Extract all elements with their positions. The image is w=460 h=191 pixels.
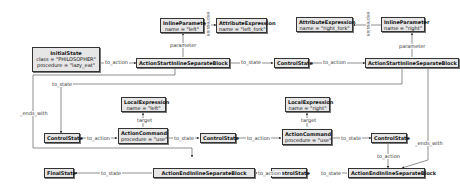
- node-title: ActionStartInlineSeparateBlock: [139, 60, 227, 66]
- edge-label-to-action: to_action: [322, 60, 347, 65]
- edge-label-to-state: to_state: [340, 136, 362, 141]
- node-attr: name = "left": [124, 105, 163, 111]
- action-start-inline-separate-block-left-node[interactable]: ActionStartInlineSeparateBlock: [136, 58, 230, 68]
- edge-label-to-state: to_state: [240, 60, 262, 65]
- edge-label-to-action: to_action: [246, 136, 271, 141]
- node-attr: procedure = "lazy_eat": [35, 62, 97, 68]
- action-command-left-node[interactable]: ActionCommand procedure = "use": [118, 128, 168, 144]
- object-diagram: InitialState class = "PHILOSOPHER" proce…: [0, 0, 460, 191]
- edge-label-parameter: parameter: [169, 43, 197, 48]
- inline-parameter-left-node[interactable]: InlineParameter name = "left": [160, 18, 204, 33]
- node-attr: name = "right_fork": [299, 25, 350, 31]
- action-end-inline-separate-block-right-node[interactable]: ActionEndInlineSeparateBlock: [348, 168, 425, 178]
- action-command-right-node[interactable]: ActionCommand procedure = "use": [282, 129, 332, 145]
- edge-label-to-state: to_state: [51, 82, 73, 87]
- node-attr: name = "right": [384, 25, 422, 31]
- inline-parameter-right-node[interactable]: InlineParameter name = "right": [381, 17, 425, 32]
- control-state-2-node[interactable]: ControlState: [200, 133, 236, 143]
- edge-label-to-state: to_state: [100, 171, 122, 176]
- node-title: ControlState: [47, 135, 77, 141]
- control-state-3-node[interactable]: ControlState: [371, 133, 407, 143]
- attribute-expression-left-node[interactable]: AttributeExpression name = "left_fork": [216, 18, 267, 33]
- local-expression-left-node[interactable]: LocalExpression name = "left": [121, 97, 166, 112]
- edge-label-expression: expression: [366, 12, 371, 36]
- node-title: ControlState: [277, 60, 306, 66]
- node-attr: name = "left": [163, 26, 201, 32]
- edge-label-to-state: to_state: [320, 171, 342, 176]
- edge-label-target: target: [300, 118, 317, 123]
- node-title: ActionEndInlineSeparateBlock: [351, 170, 422, 176]
- edge-label-to-action: to_action: [104, 60, 129, 65]
- node-attr: procedure = "use": [285, 137, 329, 143]
- edge-label-expression: expression: [206, 12, 211, 36]
- node-title: ControlState: [374, 135, 404, 141]
- initial-state-node[interactable]: InitialState class = "PHILOSOPHER" proce…: [32, 47, 100, 72]
- control-state-top-node[interactable]: ControlState: [274, 58, 309, 68]
- edge-label-to-action: to_action: [376, 154, 401, 159]
- action-start-inline-separate-block-right-node[interactable]: ActionStartInlineSeparateBlock: [365, 58, 459, 68]
- final-state-node[interactable]: FinalState: [44, 168, 74, 178]
- action-end-inline-separate-block-left-node[interactable]: ActionEndInlineSeparateBlock: [153, 168, 255, 178]
- node-attr: name = "right": [288, 105, 327, 111]
- local-expression-right-node[interactable]: LocalExpression name = "right": [285, 97, 330, 112]
- node-attr: procedure = "use": [121, 136, 165, 142]
- node-title: ActionStartInlineSeparateBlock: [368, 60, 456, 66]
- edge-label-to-action: to_action: [257, 171, 282, 176]
- edge-label-ends-with: _ends_with: [19, 111, 49, 116]
- control-state-1-node[interactable]: ControlState: [44, 133, 80, 143]
- edge-label-target: target: [136, 118, 153, 123]
- node-attr: name = "left_fork": [219, 26, 264, 32]
- edge-label-to-state: to_state: [173, 136, 195, 141]
- attribute-expression-right-node[interactable]: AttributeExpression name = "right_fork": [296, 17, 353, 32]
- edge-label-parameter: parameter: [398, 44, 426, 49]
- edge-label-ends-with: _ends_with: [414, 141, 444, 146]
- node-title: ControlState: [203, 135, 233, 141]
- node-title: FinalState: [47, 170, 71, 176]
- node-title: ActionEndInlineSeparateBlock: [156, 170, 252, 176]
- edge-label-to-action: to_action: [86, 136, 111, 141]
